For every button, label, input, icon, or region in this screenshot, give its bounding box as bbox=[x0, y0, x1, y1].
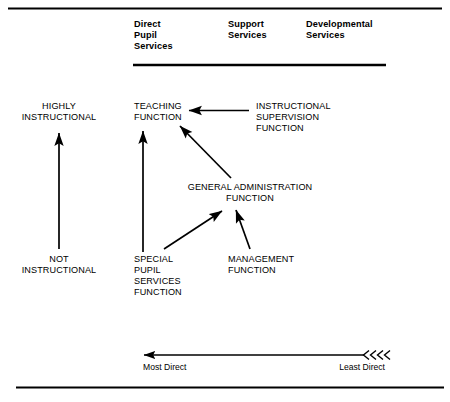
node-label-line: GENERAL ADMINISTRATION bbox=[188, 182, 312, 192]
column-header-direct-pupil-services: Direct Pupil Services bbox=[134, 19, 173, 51]
node-label-line: SUPERVISION bbox=[256, 112, 319, 122]
connector-administration-to-teaching bbox=[180, 126, 231, 178]
node-label-line: MANAGEMENT bbox=[228, 254, 295, 264]
column-header-line: Direct bbox=[134, 19, 161, 29]
column-header-line: Pupil bbox=[134, 30, 157, 40]
column-header-line: Services bbox=[306, 30, 345, 40]
connector-special-pupil-to-administration bbox=[164, 211, 222, 249]
node-general-administration-function: GENERAL ADMINISTRATION FUNCTION bbox=[188, 182, 312, 203]
node-label-line: SERVICES bbox=[134, 276, 181, 286]
vertical-instructional-scale: HIGHLY INSTRUCTIONAL NOT INSTRUCTIONAL bbox=[22, 101, 97, 275]
connector-management-to-administration bbox=[236, 210, 250, 249]
scale-top-label-line: HIGHLY bbox=[42, 101, 76, 111]
diagram-page: Direct Pupil Services Support Services D… bbox=[0, 0, 450, 402]
column-header-developmental-services: Developmental Services bbox=[306, 19, 373, 40]
horizontal-directness-scale: Most Direct Least Direct bbox=[143, 351, 390, 373]
node-special-pupil-services-function: SPECIAL PUPIL SERVICES FUNCTION bbox=[134, 254, 182, 297]
scale-bottom-label-line: INSTRUCTIONAL bbox=[22, 265, 97, 275]
chevron-mark-icon bbox=[371, 351, 377, 360]
chevron-mark-icon bbox=[378, 351, 384, 360]
node-label-line: SPECIAL bbox=[134, 254, 173, 264]
column-header-line: Services bbox=[134, 41, 173, 51]
node-label-line: PUPIL bbox=[134, 265, 161, 275]
scale-top-label-line: INSTRUCTIONAL bbox=[22, 112, 97, 122]
node-label-line: FUNCTION bbox=[228, 265, 276, 275]
scale-bottom-label-line: NOT bbox=[49, 254, 69, 264]
column-header-line: Support bbox=[228, 19, 264, 29]
column-header-line: Developmental bbox=[306, 19, 373, 29]
node-label-line: FUNCTION bbox=[256, 123, 304, 133]
node-label-line: FUNCTION bbox=[226, 193, 274, 203]
chevron-mark-icon bbox=[385, 351, 391, 360]
column-header-line: Services bbox=[228, 30, 267, 40]
node-label-line: INSTRUCTIONAL bbox=[256, 101, 331, 111]
horizontal-scale-right-label: Least Direct bbox=[339, 362, 385, 372]
node-instructional-supervision-function: INSTRUCTIONAL SUPERVISION FUNCTION bbox=[256, 101, 331, 133]
node-teaching-function: TEACHING FUNCTION bbox=[134, 101, 182, 122]
column-header-support-services: Support Services bbox=[228, 19, 267, 40]
node-label-line: TEACHING bbox=[134, 101, 182, 111]
node-label-line: FUNCTION bbox=[134, 287, 182, 297]
node-label-line: FUNCTION bbox=[134, 112, 182, 122]
instructional-function-diagram: Direct Pupil Services Support Services D… bbox=[0, 0, 450, 402]
chevron-mark-icon bbox=[364, 351, 370, 360]
node-management-function: MANAGEMENT FUNCTION bbox=[228, 254, 295, 275]
horizontal-scale-left-label: Most Direct bbox=[143, 362, 187, 372]
